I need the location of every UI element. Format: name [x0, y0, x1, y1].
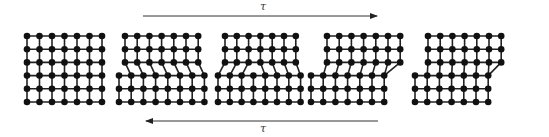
atom-node: [397, 46, 404, 53]
atom-node: [357, 99, 364, 106]
atom-node: [269, 33, 276, 40]
atom-node: [436, 72, 443, 79]
atom-node: [485, 86, 492, 93]
atom-node: [461, 33, 468, 40]
atom-node: [348, 33, 355, 40]
atom-node: [461, 46, 468, 53]
atom-node: [165, 72, 172, 79]
atom-node: [286, 72, 293, 79]
atom-node: [165, 99, 172, 106]
atom-node: [344, 86, 351, 93]
atom-node: [412, 72, 419, 79]
atom-node: [177, 86, 184, 93]
atom-node: [498, 59, 505, 66]
atom-node: [122, 59, 129, 66]
atom-node: [381, 72, 388, 79]
atom-node: [238, 72, 245, 79]
atom-node: [152, 86, 159, 93]
atom-node: [297, 86, 304, 93]
atom-node: [293, 59, 300, 66]
atom-node: [281, 46, 288, 53]
atom-node: [320, 86, 327, 93]
atom-node: [385, 46, 392, 53]
atom-node: [320, 99, 327, 106]
atom-node: [245, 59, 252, 66]
atom-node: [473, 72, 480, 79]
atom-node: [474, 46, 481, 53]
atom-node: [177, 72, 184, 79]
atom-node: [74, 46, 81, 53]
atom-node: [189, 86, 196, 93]
atom-node: [373, 33, 380, 40]
atom-node: [36, 72, 43, 79]
tau-label-bottom: τ: [260, 122, 266, 135]
atom-node: [128, 99, 135, 106]
atom-node: [116, 86, 123, 93]
atom-node: [250, 99, 257, 106]
atom-node: [357, 72, 364, 79]
atom-node: [146, 33, 153, 40]
atom-node: [360, 59, 367, 66]
atom-node: [373, 46, 380, 53]
atom-node: [274, 86, 281, 93]
atom-node: [324, 46, 331, 53]
atom-node: [61, 86, 68, 93]
atom-node: [36, 33, 43, 40]
atom-node: [99, 46, 106, 53]
atom-node: [61, 59, 68, 66]
atom-node: [498, 33, 505, 40]
atom-node: [424, 72, 431, 79]
atom-node: [474, 59, 481, 66]
atom-node: [486, 59, 493, 66]
atom-node: [134, 33, 141, 40]
atom-node: [269, 59, 276, 66]
atom-node: [412, 86, 419, 93]
atom-node: [436, 86, 443, 93]
atom-node: [257, 59, 264, 66]
atom-node: [473, 86, 480, 93]
dislocation-diagram: τ τ: [0, 0, 549, 137]
atom-node: [397, 33, 404, 40]
atom-node: [99, 33, 106, 40]
atom-node: [195, 33, 202, 40]
atom-node: [373, 59, 380, 66]
atom-node: [336, 59, 343, 66]
atom-node: [116, 99, 123, 106]
atom-node: [385, 33, 392, 40]
atom-node: [324, 33, 331, 40]
atom-node: [49, 86, 56, 93]
atom-node: [99, 59, 106, 66]
atom-node: [195, 46, 202, 53]
atom-node: [61, 33, 68, 40]
atom-node: [448, 99, 455, 106]
atom-node: [24, 86, 31, 93]
atom-node: [86, 46, 93, 53]
atom-node: [257, 33, 264, 40]
atom-node: [360, 33, 367, 40]
atom-node: [222, 46, 229, 53]
atom-node: [140, 86, 147, 93]
atom-node: [234, 33, 241, 40]
atom-node: [49, 59, 56, 66]
atom-node: [227, 86, 234, 93]
atom-node: [286, 99, 293, 106]
atom-node: [61, 46, 68, 53]
atom-node: [183, 33, 190, 40]
atom-node: [269, 46, 276, 53]
atom-node: [474, 33, 481, 40]
lattice-stage-1: [24, 33, 106, 106]
atom-node: [158, 33, 165, 40]
atom-node: [140, 99, 147, 106]
atom-node: [238, 99, 245, 106]
atom-node: [24, 99, 31, 106]
atom-node: [498, 46, 505, 53]
atom-node: [449, 59, 456, 66]
atom-node: [437, 46, 444, 53]
atom-node: [177, 99, 184, 106]
atom-node: [74, 72, 81, 79]
atom-node: [116, 72, 123, 79]
atom-node: [473, 99, 480, 106]
atom-node: [183, 46, 190, 53]
atom-node: [24, 72, 31, 79]
atom-node: [36, 59, 43, 66]
